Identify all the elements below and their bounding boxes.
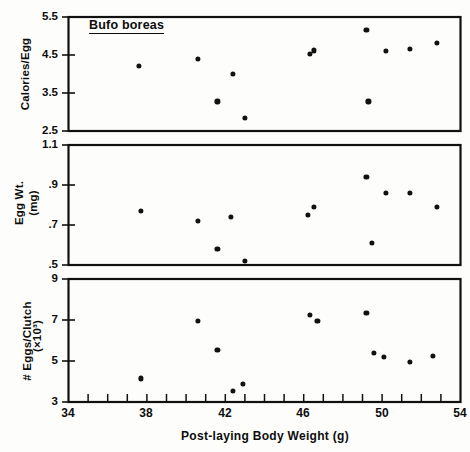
xtick-2: 42 <box>205 406 245 420</box>
panel-1-ytick-3: 2.5 <box>18 124 58 136</box>
panel-2-ytick-3: .5 <box>18 258 58 270</box>
panel-3-ytick-1: 7 <box>18 313 58 325</box>
xtick-3: 46 <box>283 406 323 420</box>
panel-2-ytick-0: 1.1 <box>18 138 58 150</box>
panel-3-ytick-2: 5 <box>18 354 58 366</box>
species-label: Bufo boreas <box>89 18 164 34</box>
xtick-0: 34 <box>48 406 88 420</box>
panel-1-y-axis-title: Calories/Egg <box>19 31 31 117</box>
panel-1-ytick-2: 3.5 <box>18 86 58 98</box>
panel-2-ytick-1: .9 <box>18 178 58 190</box>
xtick-5: 54 <box>440 406 470 420</box>
panel-1-ytick-1: 4.5 <box>18 48 58 60</box>
panel-1-ytick-0: 5.5 <box>18 10 58 22</box>
figure-canvas: Bufo boreas Calories/Egg Egg Wt. (mg) # … <box>0 0 470 452</box>
panel-3-ytick-0: 9 <box>18 272 58 284</box>
x-axis-title: Post-laying Body Weight (g) <box>125 429 405 443</box>
panel-2-ytick-2: .7 <box>18 218 58 230</box>
xtick-1: 38 <box>126 406 166 420</box>
axes-frame <box>0 0 470 452</box>
xtick-4: 50 <box>362 406 402 420</box>
